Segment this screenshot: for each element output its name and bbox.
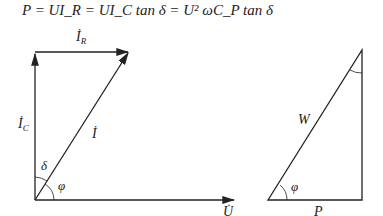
phasor-i bbox=[35, 53, 128, 200]
label-phi-triangle: φ bbox=[291, 179, 298, 194]
label-i: İ bbox=[91, 126, 98, 141]
label-delta: δ bbox=[41, 158, 48, 173]
label-p: P bbox=[313, 204, 323, 216]
label-u: U̇ bbox=[223, 204, 234, 216]
label-ir: İR bbox=[75, 29, 87, 46]
angle-arc-phi-triangle bbox=[280, 185, 287, 200]
angle-arc-phi bbox=[45, 184, 54, 200]
label-ic: İC bbox=[17, 116, 30, 133]
diagram-canvas: İR İC İ U̇ δ φ W P φ bbox=[0, 0, 383, 216]
power-triangle: W P φ bbox=[268, 50, 362, 216]
angle-arc-delta bbox=[35, 177, 47, 181]
label-phi: φ bbox=[58, 178, 65, 193]
angle-arc-top bbox=[350, 70, 362, 73]
phasor-diagram: İR İC İ U̇ δ φ bbox=[17, 29, 234, 216]
label-w: W bbox=[298, 112, 311, 127]
